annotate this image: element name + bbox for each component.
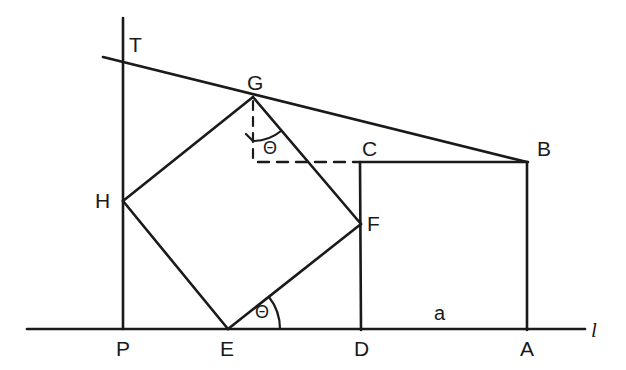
segment-HE <box>123 201 228 329</box>
vertex-label-H: H <box>95 190 110 211</box>
vertex-label-F: F <box>367 213 380 234</box>
vertex-label-D: D <box>354 338 369 359</box>
vertex-label-E: E <box>220 338 234 359</box>
vertex-label-A: A <box>520 338 534 359</box>
side-length-label-a: a <box>434 303 445 323</box>
geometry-diagram-canvas: T G H C B F P E D A Θ Θ a l <box>0 0 626 370</box>
tangent-line-TGB <box>103 57 527 162</box>
angle-label-theta-at-E: Θ <box>255 303 269 321</box>
segment-EF <box>228 224 361 329</box>
vertex-label-B: B <box>537 138 551 159</box>
vertex-label-C: C <box>362 138 377 159</box>
geometry-svg <box>0 0 626 370</box>
vertex-label-G: G <box>247 72 263 93</box>
segment-GH <box>123 97 253 201</box>
angle-arc-at-E <box>269 297 280 329</box>
segment-CD <box>360 162 361 330</box>
vertex-label-T: T <box>129 34 142 55</box>
line-label-l: l <box>591 320 597 341</box>
vertex-label-P: P <box>116 338 130 359</box>
angle-label-theta-at-G: Θ <box>263 139 277 157</box>
